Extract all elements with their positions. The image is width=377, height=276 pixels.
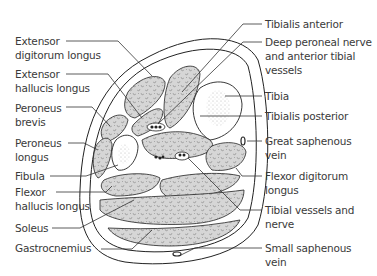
label-tibia: Tibia [265, 89, 289, 103]
label-small-saphenous-vein: Small saphenous vein [265, 241, 351, 269]
great-saphenous-vein [241, 137, 245, 145]
label-soleus: Soleus [15, 221, 48, 235]
label-fibula: Fibula [15, 169, 45, 183]
label-great-saphenous-vein: Great saphenous vein [265, 134, 351, 162]
label-peroneus-brevis: Peroneus brevis [15, 101, 62, 129]
label-tibialis-posterior: Tibialis posterior [265, 109, 348, 123]
label-extensor-digitorum-longus: Extensor digitorum longus [15, 34, 101, 62]
label-peroneus-longus: Peroneus longus [15, 136, 62, 164]
label-gastrocnemius: Gastrocnemius [15, 241, 91, 255]
small-saphenous-vein [173, 252, 181, 256]
tibial-vessels [175, 152, 189, 160]
label-deep-peroneal-nerve: Deep peroneal nerve and anterior tibial … [265, 35, 372, 77]
label-flexor-hallucis-longus: Flexor hallucis longus [15, 185, 90, 213]
label-extensor-hallucis-longus: Extensor hallucis longus [15, 67, 90, 95]
label-flexor-digitorum-longus: Flexor digitorum longus [265, 169, 348, 197]
label-tibial-vessels-and-nerve: Tibial vessels and nerve [265, 203, 354, 231]
label-tibialis-anterior: Tibialis anterior [265, 17, 343, 31]
